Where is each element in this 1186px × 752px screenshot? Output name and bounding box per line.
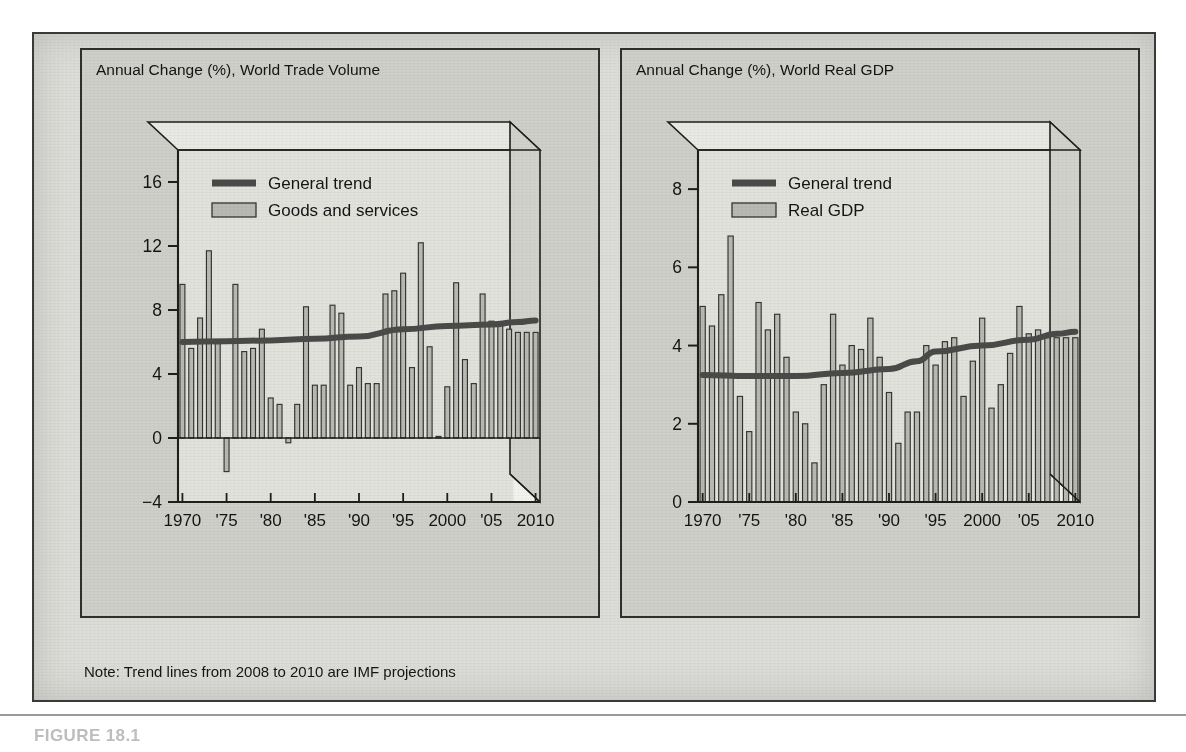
x-tick-label: '80 [785,511,807,530]
bar [1026,334,1031,502]
plot-right: 024681970'75'80'85'90'952000'052010Gener… [622,50,1138,616]
bar [709,326,714,502]
chart-note: Note: Trend lines from 2008 to 2010 are … [84,663,456,680]
x-tick-label: 1970 [164,511,202,530]
bar [1008,353,1013,502]
bar [1035,330,1040,502]
bar [933,365,938,502]
bar [348,385,353,438]
y-tick-label: 12 [143,236,162,256]
y-tick-label: 8 [152,300,162,320]
bar [242,352,247,438]
x-tick-label: 2010 [517,511,555,530]
bar [998,385,1003,502]
bar [374,384,379,438]
bar [942,342,947,502]
box-top-face [148,122,540,150]
bar [189,348,194,438]
plot-left: −404812161970'75'80'85'90'952000'052010G… [82,50,598,616]
y-tick-label: 8 [672,179,682,199]
x-tick-label: '85 [304,511,326,530]
bar [392,291,397,438]
bar [251,348,256,438]
bar [886,392,891,502]
bar [198,318,203,438]
x-tick-label: '75 [215,511,237,530]
bar [515,332,520,438]
bar [454,283,459,438]
bar [756,303,761,502]
bar [180,284,185,438]
bar [233,284,238,438]
bar [383,294,388,438]
x-tick-label: '95 [392,511,414,530]
y-tick-label: 16 [143,172,162,192]
y-tick-label: 6 [672,257,682,277]
x-tick-label: '80 [260,511,282,530]
bar [215,344,220,438]
bar [1054,338,1059,502]
box-top-face [668,122,1080,150]
bar [700,306,705,502]
bar [830,314,835,502]
bar [330,305,335,438]
y-tick-label: 4 [672,336,682,356]
bar [312,385,317,438]
legend-swatch-bar [212,203,256,217]
bar [259,329,264,438]
bar [868,318,873,502]
legend-label: Goods and services [268,201,418,220]
bar [989,408,994,502]
bar [224,438,229,472]
y-tick-label: 0 [152,428,162,448]
bar [533,332,538,438]
page-root: International Monetary Fund Internationa… [0,0,1186,752]
bar [277,404,282,438]
bar [905,412,910,502]
y-tick-label: 0 [672,492,682,512]
chart-panel-world-real-gdp: Annual Change (%), World Real GDP 024681… [620,48,1140,618]
bar [765,330,770,502]
bar [914,412,919,502]
bar [365,384,370,438]
x-tick-label: 1970 [684,511,722,530]
bar [524,332,529,438]
bar [410,368,415,438]
x-tick-label: '95 [925,511,947,530]
bar [775,314,780,502]
legend-swatch-bar [732,203,776,217]
bar [1073,338,1078,502]
page-divider-rule [0,714,1186,716]
legend-label: Real GDP [788,201,865,220]
bar [1045,338,1050,502]
bar [418,243,423,438]
bar [728,236,733,502]
bar [507,329,512,438]
bar [896,443,901,502]
x-tick-label: 2000 [963,511,1001,530]
charts-container: Annual Change (%), World Trade Volume −4… [80,48,1140,618]
bar [304,307,309,438]
bar [747,432,752,502]
bar [877,357,882,502]
chart-panel-world-trade-volume: Annual Change (%), World Trade Volume −4… [80,48,600,618]
bar [1063,338,1068,502]
figure-caption: FIGURE 18.1 [34,726,140,746]
bar [793,412,798,502]
bar [952,338,957,502]
x-tick-label: '75 [738,511,760,530]
x-tick-label: 2000 [428,511,466,530]
bar [462,360,467,438]
legend-label: General trend [268,174,372,193]
y-tick-label: 4 [152,364,162,384]
bar [471,384,476,438]
x-tick-label: 2010 [1056,511,1094,530]
bar [445,387,450,438]
bar [427,347,432,438]
bar [489,321,494,438]
bar [840,365,845,502]
bar [268,398,273,438]
bar [498,324,503,438]
bar [401,273,406,438]
chart-svg-right: 024681970'75'80'85'90'952000'052010Gener… [622,50,1140,618]
